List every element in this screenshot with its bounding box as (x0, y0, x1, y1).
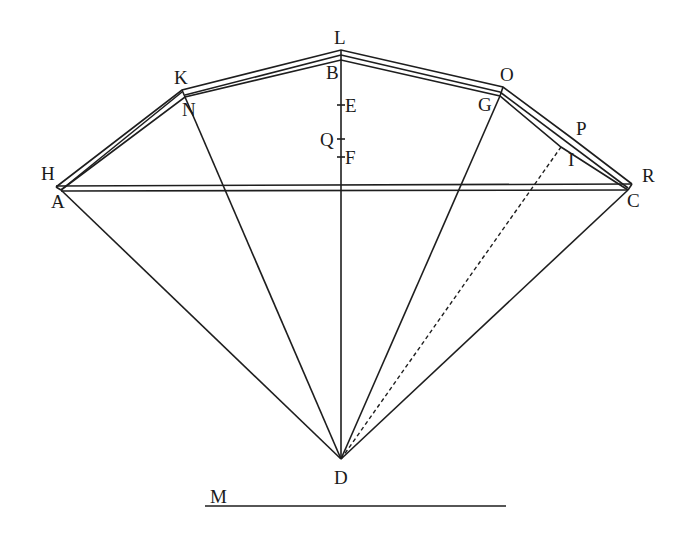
label-L: L (334, 28, 346, 47)
arc-segment-N-L (185, 55, 341, 95)
label-C: C (627, 191, 640, 210)
label-A: A (51, 192, 65, 211)
label-I: I (568, 150, 574, 169)
label-G: G (478, 95, 492, 114)
label-E: E (345, 96, 357, 115)
label-H: H (41, 164, 55, 183)
label-Q: Q (320, 130, 334, 149)
arc-segment-G-C (500, 92, 628, 188)
arc-segment-A-K (61, 92, 182, 190)
geometry-diagram (0, 0, 689, 533)
chord-A-C (61, 190, 628, 191)
radius-D-A (61, 190, 341, 459)
label-F: F (345, 148, 356, 167)
label-N: N (182, 100, 196, 119)
label-O: O (500, 65, 514, 84)
chord-H-R (56, 184, 632, 186)
radius-D-C (341, 190, 628, 459)
radius-D-G (341, 96, 500, 459)
label-K: K (174, 68, 188, 87)
segment-K-N (182, 90, 185, 97)
label-P: P (576, 119, 587, 138)
radius-D-I-dashed (341, 147, 561, 459)
segment-H-A (56, 187, 61, 190)
label-R: R (642, 166, 655, 185)
outer-polygon (56, 50, 632, 187)
label-D: D (334, 468, 348, 487)
label-M: M (210, 487, 227, 506)
radius-D-N (185, 97, 341, 459)
arc-segment-L-G (341, 55, 500, 92)
label-B: B (326, 63, 339, 82)
